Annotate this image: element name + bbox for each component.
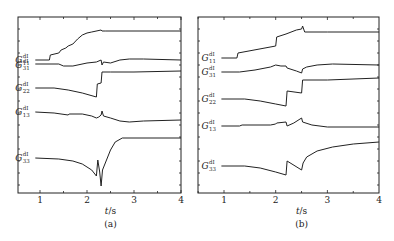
series-label-13: G	[15, 107, 22, 117]
series-label-33: G	[15, 153, 22, 163]
panel-caption: (a)	[104, 219, 116, 229]
series-label-sup: dI	[23, 81, 29, 87]
x-axis-label: t/s	[105, 206, 117, 216]
series-label-sub: 22	[209, 99, 216, 105]
x-tick-label: 2	[273, 195, 279, 205]
series-label-22: G	[201, 94, 208, 104]
series-label-sub: 31	[209, 72, 216, 78]
series-label-sup: dI	[23, 58, 29, 64]
x-tick-label: 3	[131, 195, 137, 205]
curve-11	[35, 30, 181, 60]
plot-frame	[198, 17, 379, 193]
x-tick-label: 4	[376, 195, 382, 205]
curve-13	[221, 118, 379, 127]
x-tick-label: 1	[37, 195, 43, 205]
x-tick-label: 4	[178, 195, 184, 205]
series-label-sub: 33	[23, 158, 30, 164]
series-label-11: G	[201, 53, 208, 63]
curve-33	[35, 138, 181, 186]
series-label-sub: 33	[209, 166, 216, 172]
curve-11	[221, 26, 379, 58]
curve-13	[35, 111, 181, 122]
x-axis-label: t/s	[296, 206, 308, 216]
series-label-sub: 22	[23, 88, 30, 94]
series-label-sub: 13	[23, 112, 30, 118]
series-label-sup: dI	[209, 65, 215, 71]
curve-33	[221, 142, 379, 175]
series-label-22: G	[15, 83, 22, 93]
x-tick-label: 1	[221, 195, 227, 205]
figure: 1234t/s(a)GdI11GdI31GdI22GdI13GdI331234t…	[0, 0, 394, 241]
x-tick-label: 3	[325, 195, 331, 205]
series-label-sup: dI	[209, 159, 215, 165]
series-label-sub: 13	[209, 126, 216, 132]
series-label-sup: dI	[209, 92, 215, 98]
panel-b: 1234t/s(b)GdI11GdI31GdI22GdI13GdI33	[198, 17, 382, 229]
series-label-33: G	[201, 161, 208, 171]
series-label-31: G	[201, 67, 208, 77]
curve-31	[221, 64, 379, 73]
series-label-sub: 11	[209, 58, 216, 64]
curve-22	[221, 78, 379, 106]
series-label-sup: dI	[23, 151, 29, 157]
curve-22	[35, 71, 181, 97]
x-tick-label: 2	[84, 195, 90, 205]
series-label-31: G	[15, 60, 22, 70]
series-label-sub: 31	[23, 65, 30, 71]
curve-31	[35, 59, 181, 66]
panel-caption: (b)	[295, 219, 308, 229]
plot-frame	[18, 17, 181, 193]
series-label-sup: dI	[209, 51, 215, 57]
panel-a: 1234t/s(a)GdI11GdI31GdI22GdI13GdI33	[15, 17, 184, 229]
series-label-13: G	[201, 121, 208, 131]
series-label-sup: dI	[209, 119, 215, 125]
series-label-sup: dI	[23, 105, 29, 111]
